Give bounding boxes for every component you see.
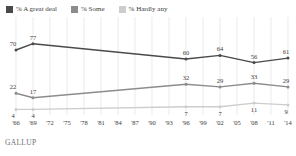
data-label: 33 — [251, 73, 258, 80]
data-point — [185, 58, 188, 61]
data-label: 56 — [251, 53, 258, 60]
data-point — [15, 108, 18, 111]
data-point — [15, 92, 18, 95]
x-axis-tick-label: '66 — [12, 119, 20, 127]
data-point — [287, 57, 290, 60]
data-label: 7 — [184, 110, 187, 117]
chart-legend: % A great deal % Some % Hardly any — [6, 3, 167, 15]
x-axis-tick-label: '02 — [216, 119, 224, 127]
data-point — [185, 83, 188, 86]
data-label: 32 — [183, 74, 190, 81]
data-point — [219, 85, 222, 88]
data-point — [253, 61, 256, 64]
data-label: 61 — [283, 48, 290, 55]
square-swatch-icon — [71, 6, 78, 13]
legend-label: % Some — [81, 6, 105, 13]
legend-item-a-great-deal: % A great deal — [6, 6, 57, 13]
x-axis-tick-label: '99 — [199, 119, 207, 127]
data-point — [15, 49, 18, 52]
data-point — [219, 54, 222, 57]
x-axis-tick-label: '84 — [114, 119, 122, 127]
x-axis-tick-label: '96 — [182, 119, 190, 127]
square-swatch-icon — [119, 6, 126, 13]
data-point — [287, 85, 290, 88]
data-label: 7 — [218, 110, 221, 117]
legend-label: % Hardly any — [129, 6, 168, 13]
square-swatch-icon — [6, 6, 13, 13]
x-axis-tick-label: '87 — [131, 119, 139, 127]
x-axis-tick-label: '78 — [80, 119, 88, 127]
x-axis-tick-label: '14 — [284, 119, 292, 127]
data-label: 9 — [284, 108, 287, 115]
x-axis-tick-label: '05 — [233, 119, 241, 127]
data-point — [32, 108, 35, 111]
data-point — [185, 105, 188, 108]
data-point — [219, 105, 222, 108]
x-axis-tick-label: '08 — [250, 119, 258, 127]
data-label: 60 — [183, 49, 190, 56]
x-axis-tick-label: '69 — [29, 119, 37, 127]
data-point — [253, 82, 256, 85]
plot-area: 7077606456612217322933294477119 — [0, 17, 296, 117]
data-label: 77 — [30, 34, 37, 41]
data-label: 29 — [217, 77, 224, 84]
data-point — [32, 42, 35, 45]
data-point — [287, 103, 290, 106]
data-point — [32, 96, 35, 99]
x-axis-tick-label: '11 — [267, 119, 274, 127]
data-label: 29 — [283, 77, 290, 84]
data-label: 17 — [30, 88, 37, 95]
data-label: 22 — [10, 83, 17, 90]
data-label: 64 — [217, 45, 224, 52]
data-label: 11 — [251, 106, 257, 113]
x-axis-tick-label: '75 — [63, 119, 71, 127]
data-point — [253, 102, 256, 105]
source-attribution: GALLUP — [5, 138, 36, 147]
gallup-trend-chart: % A great deal % Some % Hardly any 70776… — [0, 0, 296, 156]
x-axis: '66'69'72'75'78'81'84'87'90'93'96'99'02'… — [0, 119, 296, 131]
x-axis-tick-label: '72 — [46, 119, 54, 127]
legend-item-hardly-any: % Hardly any — [119, 6, 168, 13]
data-label: 70 — [10, 40, 17, 47]
plot-svg — [0, 17, 296, 117]
x-axis-tick-label: '81 — [97, 119, 105, 127]
legend-item-some: % Some — [71, 6, 105, 13]
legend-label: % A great deal — [16, 6, 57, 13]
x-axis-tick-label: '93 — [165, 119, 173, 127]
x-axis-tick-label: '90 — [148, 119, 156, 127]
